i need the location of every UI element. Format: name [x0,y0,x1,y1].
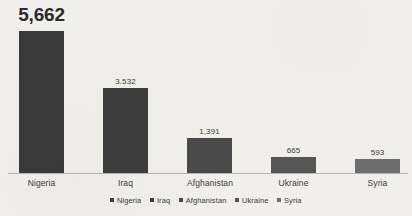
bar-syria: 593 [355,159,400,173]
bar-afghanistan: 1,391 [187,138,232,173]
legend-item-label: Iraq [157,196,170,205]
category-label-syria: Syria [355,178,400,188]
legend-swatch-icon [277,198,281,202]
x-axis-baseline [8,173,408,174]
legend-item-label: Afghanistan [186,196,227,205]
legend-swatch-icon [179,198,183,202]
bar-ukraine: 665 [271,157,316,173]
category-label-iraq: Iraq [103,178,148,188]
chart-screenshot: 5,6623.5321,391665593 NigeriaIraqAfghani… [0,0,412,216]
legend-item-label: Nigeria [117,196,141,205]
bar-value-label-ukraine: 665 [287,146,301,155]
bar-nigeria: 5,662 [19,31,64,173]
legend-swatch-icon [150,198,154,202]
legend-item-syria[interactable]: Syria [277,196,301,205]
chart-legend: NigeriaIraqAfghanistanUkraineSyria [0,196,412,205]
bar-rect [19,31,64,173]
bar-value-label-afghanistan: 1,391 [199,127,220,136]
bar-rect [187,138,232,173]
legend-swatch-icon [110,198,114,202]
bar-iraq: 3.532 [103,88,148,173]
legend-item-label: Syria [284,196,302,205]
bar-chart-plot-area: 5,6623.5321,391665593 NigeriaIraqAfghani… [0,0,412,216]
bar-value-label-syria: 593 [371,148,385,157]
bar-value-label-nigeria: 5,662 [18,4,65,26]
bar-value-label-iraq: 3.532 [115,77,136,86]
legend-item-iraq[interactable]: Iraq [150,196,170,205]
category-label-nigeria: Nigeria [19,178,64,188]
bar-rect [271,157,316,173]
legend-item-afghanistan[interactable]: Afghanistan [179,196,226,205]
bar-rect [355,159,400,173]
legend-item-label: Ukraine [242,196,269,205]
category-label-afghanistan: Afghanistan [187,178,232,188]
legend-swatch-icon [235,198,239,202]
legend-item-ukraine[interactable]: Ukraine [235,196,268,205]
legend-item-nigeria[interactable]: Nigeria [110,196,141,205]
bar-rect [103,88,148,173]
category-label-ukraine: Ukraine [271,178,316,188]
